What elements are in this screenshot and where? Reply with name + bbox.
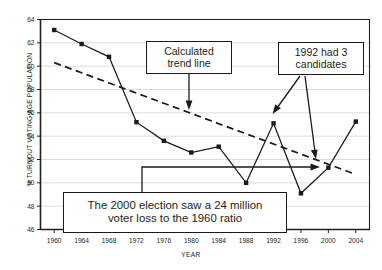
data-point-marker <box>326 165 330 169</box>
x-tick-label: 1972 <box>129 237 144 244</box>
arrowhead-1992b <box>311 149 318 159</box>
data-point-marker <box>162 139 166 143</box>
arrowhead-2000 <box>311 164 321 171</box>
y-tick-label: 64 <box>27 16 35 23</box>
data-point-marker <box>299 191 303 195</box>
annotation-trend-line: Calculated trend line <box>146 41 232 74</box>
y-axis-label: % TURNOUT VOTING AGE POPULATION <box>26 25 33 215</box>
arrowhead-trend <box>186 101 193 111</box>
x-tick-label: 1976 <box>157 237 172 244</box>
data-point-marker <box>52 28 56 32</box>
data-point-marker <box>354 119 358 123</box>
x-axis-label: YEAR <box>0 251 382 258</box>
leader-1992-to-1992pt <box>277 76 300 108</box>
y-tick-label: 46 <box>27 226 35 233</box>
annotation-1992-line-1: 1992 had 3 <box>279 46 363 58</box>
annotation-trend-line-2: trend line <box>147 57 231 69</box>
data-point-marker <box>79 42 83 46</box>
chart-container: 46485052545658606264 1960196419681972197… <box>0 0 382 270</box>
x-tick-label: 1984 <box>211 237 226 244</box>
annotation-2000-election: The 2000 election saw a 24 million voter… <box>63 192 287 233</box>
x-tick-label: 1992 <box>266 237 281 244</box>
data-point-marker <box>107 55 111 59</box>
leader-1992-to-2000pt <box>305 76 315 152</box>
x-tick-label: 1964 <box>74 237 89 244</box>
data-point-marker <box>217 144 221 148</box>
data-point-marker <box>271 121 275 125</box>
x-tick-label: 1988 <box>239 237 254 244</box>
annotation-1992-candidates: 1992 had 3 candidates <box>278 42 364 75</box>
data-point-marker <box>189 150 193 154</box>
data-point-marker <box>134 120 138 124</box>
x-tick-label: 1968 <box>102 237 117 244</box>
annotation-2000-line-1: The 2000 election saw a 24 million <box>64 199 286 212</box>
x-tick-label: 1996 <box>294 237 309 244</box>
annotation-1992-line-2: candidates <box>279 58 363 70</box>
leader-2000-box <box>142 167 313 192</box>
annotation-trend-line-1: Calculated <box>147 45 231 57</box>
annotation-2000-line-2: voter loss to the 1960 ratio <box>64 212 286 225</box>
x-tick-label: 1980 <box>184 237 199 244</box>
data-point-marker <box>244 181 248 185</box>
x-tick-label: 1960 <box>47 237 62 244</box>
x-tick-label: 2004 <box>348 237 363 244</box>
x-tick-label: 2000 <box>321 237 336 244</box>
